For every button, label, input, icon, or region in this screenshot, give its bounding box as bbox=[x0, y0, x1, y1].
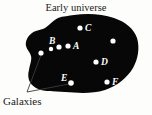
galaxy-dot-f bbox=[104, 79, 109, 84]
galaxy-dot-b bbox=[56, 44, 61, 49]
galaxy-dot-unlabeled-upper-right bbox=[110, 38, 115, 43]
diagram-title: Early universe bbox=[46, 2, 107, 13]
galaxy-dot-e bbox=[68, 80, 74, 86]
galaxy-dot-unlabeled-left bbox=[38, 50, 43, 55]
early-universe-diagram: Early universe C A B D E F Galaxies bbox=[0, 0, 152, 115]
galaxy-dot-c bbox=[77, 25, 82, 30]
galaxy-dot-d bbox=[93, 59, 98, 64]
galaxy-label-d: D bbox=[100, 57, 108, 67]
galaxy-label-b: B bbox=[48, 36, 55, 46]
diagram-canvas: Early universe C A B D E F Galaxies bbox=[0, 0, 152, 115]
galaxy-dot-unlabeled-mid-left bbox=[49, 47, 53, 51]
galaxy-label-a: A bbox=[72, 41, 79, 51]
galaxies-callout-label: Galaxies bbox=[3, 95, 41, 107]
galaxy-label-f: F bbox=[111, 77, 119, 87]
galaxy-label-e: E bbox=[60, 73, 67, 83]
galaxy-label-c: C bbox=[85, 23, 92, 33]
galaxy-dot-a bbox=[65, 43, 70, 48]
